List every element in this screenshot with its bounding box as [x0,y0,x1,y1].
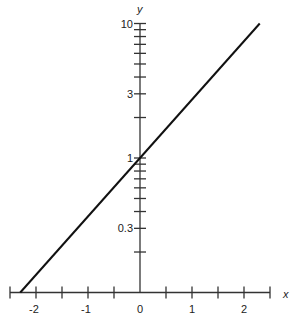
x-tick-label: 1 [189,303,195,315]
y-tick-label: 3 [127,88,133,100]
y-axis-label: y [136,3,144,15]
x-tick-label: -2 [29,303,39,315]
x-tick-label: 2 [241,303,247,315]
x-tick-label: -1 [81,303,91,315]
tick-labels: -2-10120.31310 [29,18,247,315]
log-linear-plot: -2-10120.31310 x y [0,0,293,322]
y-tick-label: 1 [127,152,133,164]
y-tick-label: 0.3 [118,222,133,234]
y-tick-label: 10 [121,18,133,30]
x-tick-label: 0 [137,303,143,315]
x-axis-label: x [282,288,289,300]
